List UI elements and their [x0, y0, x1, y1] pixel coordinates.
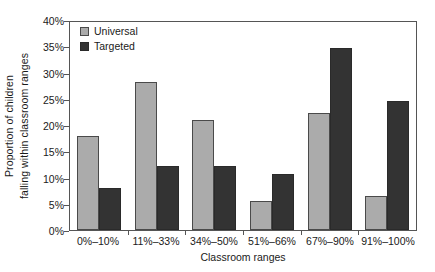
y-axis-ticks: 0%5%10%15%20%25%30%35%40%	[26, 0, 64, 272]
bar-universal[interactable]	[192, 120, 214, 230]
bar-universal[interactable]	[77, 136, 99, 231]
plot-area	[69, 21, 417, 231]
x-tick-label: 34%–50%	[185, 235, 243, 251]
y-tick-label: 15%	[26, 147, 64, 157]
y-tick-mark	[64, 152, 69, 153]
bar-group	[70, 22, 128, 230]
x-tick-label: 11%–33%	[127, 235, 185, 251]
x-tick-label: 51%–66%	[243, 235, 301, 251]
legend-swatch-targeted-icon	[80, 42, 89, 51]
y-tick-mark	[64, 100, 69, 101]
bar-targeted[interactable]	[330, 48, 352, 230]
legend-label-targeted: Targeted	[94, 40, 135, 52]
x-tick-label: 67%–90%	[301, 235, 359, 251]
y-axis-title-line-1: Proportion of children	[3, 75, 15, 177]
bar-group	[301, 22, 359, 230]
y-tick-label: 25%	[26, 95, 64, 105]
y-tick-mark	[64, 126, 69, 127]
y-tick-label: 20%	[26, 121, 64, 131]
y-tick-label: 35%	[26, 42, 64, 52]
bar-targeted[interactable]	[387, 101, 409, 230]
y-tick-mark	[64, 21, 69, 22]
bar-group	[185, 22, 243, 230]
bar-targeted[interactable]	[272, 174, 294, 230]
y-tick-label: 30%	[26, 69, 64, 79]
x-tick-label: 0%–10%	[69, 235, 127, 251]
legend-item-targeted: Targeted	[80, 40, 138, 52]
y-tick-label: 0%	[26, 226, 64, 236]
bar-targeted[interactable]	[157, 166, 179, 230]
y-tick-mark	[64, 179, 69, 180]
x-axis-ticks: 0%–10%11%–33%34%–50%51%–66%67%–90%91%–10…	[69, 235, 417, 251]
y-tick-label: 40%	[26, 16, 64, 26]
y-tick-label: 5%	[26, 200, 64, 210]
x-tick-label: 91%–100%	[359, 235, 417, 251]
bar-group	[358, 22, 416, 230]
y-tick-mark	[64, 74, 69, 75]
legend-item-universal: Universal	[80, 25, 138, 37]
bar-universal[interactable]	[308, 113, 330, 230]
y-tick-mark	[64, 205, 69, 206]
chart-legend: Universal Targeted	[80, 25, 138, 52]
bar-targeted[interactable]	[99, 188, 121, 230]
bar-groups	[70, 22, 416, 230]
legend-label-universal: Universal	[94, 25, 138, 37]
bar-universal[interactable]	[250, 201, 272, 230]
bar-group	[128, 22, 186, 230]
legend-swatch-universal-icon	[80, 27, 89, 36]
bar-universal[interactable]	[365, 196, 387, 230]
bar-chart-figure: Proportion of children falling within cl…	[0, 0, 435, 272]
y-tick-mark	[64, 231, 69, 232]
x-axis-title: Classroom ranges	[69, 251, 417, 263]
bar-group	[243, 22, 301, 230]
y-tick-mark	[64, 47, 69, 48]
y-tick-label: 10%	[26, 174, 64, 184]
bar-targeted[interactable]	[214, 166, 236, 230]
bar-universal[interactable]	[135, 82, 157, 230]
